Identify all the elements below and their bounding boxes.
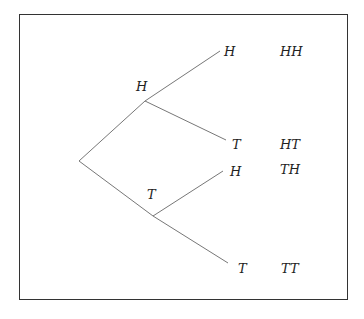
tree-branches <box>0 0 364 319</box>
branch-t-h <box>153 171 223 216</box>
outcome-th: TH <box>280 163 300 176</box>
leaf-label-th: H <box>230 165 241 178</box>
branch-root-h <box>79 101 145 161</box>
branch-root-t <box>79 161 153 216</box>
node-label-t: T <box>147 188 156 201</box>
leaf-label-tt: T <box>238 262 247 275</box>
leaf-label-ht: T <box>232 138 241 151</box>
branch-t-t <box>153 216 228 263</box>
leaf-label-hh: H <box>224 45 235 58</box>
branch-h-t <box>145 101 226 140</box>
branch-h-h <box>145 51 220 101</box>
outcome-ht: HT <box>280 138 300 151</box>
node-label-h: H <box>136 80 147 93</box>
outcome-hh: HH <box>280 45 303 58</box>
outcome-tt: TT <box>281 262 299 275</box>
